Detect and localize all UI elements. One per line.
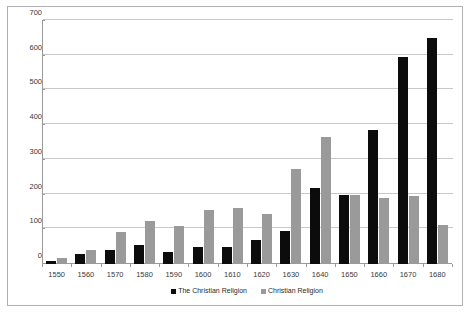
x-tick-label: 1640 (306, 269, 335, 281)
x-tick-label: 1600 (188, 269, 217, 281)
x-tick-mark (247, 264, 276, 268)
bar-series-a-1610 (222, 247, 232, 264)
x-tick-mark (130, 264, 159, 268)
bar-series-b-1680 (438, 225, 448, 264)
bar-series-b-1670 (409, 196, 419, 264)
y-axis: 0100200300400500600700 (8, 21, 42, 264)
bar-group (276, 21, 305, 264)
bar-group (306, 21, 335, 264)
bar-series-b-1610 (233, 208, 243, 264)
bar-series-a-1650 (339, 195, 349, 264)
x-axis-labels: 1550156015701580159016001610162016301640… (42, 269, 452, 281)
x-tick-label: 1660 (364, 269, 393, 281)
x-tick-label: 1570 (101, 269, 130, 281)
x-tick-label: 1620 (247, 269, 276, 281)
y-tick-label: 200 (16, 183, 42, 191)
x-axis-ticks (42, 264, 452, 268)
x-tick-mark (423, 264, 452, 268)
bar-group (130, 21, 159, 264)
bar-series-a-1680 (427, 38, 437, 264)
y-tick-label: 300 (16, 148, 42, 156)
bar-series-a-1600 (193, 247, 203, 264)
bar-series-b-1600 (204, 210, 214, 264)
x-tick-mark (42, 264, 71, 268)
bar-series-b-1560 (86, 250, 96, 264)
bar-group (364, 21, 393, 264)
bar-series-b-1570 (116, 232, 126, 264)
x-tick-mark (306, 264, 335, 268)
bar-series-a-1590 (163, 252, 173, 264)
chart-legend: The Christian ReligionChristian Religion (42, 285, 452, 297)
bar-group (247, 21, 276, 264)
bar-series-a-1620 (251, 240, 261, 264)
bar-group (393, 21, 422, 264)
bar-group (188, 21, 217, 264)
y-tick-label: 700 (16, 9, 42, 17)
legend-entry[interactable]: Christian Religion (261, 287, 323, 295)
bar-group (423, 21, 452, 264)
bar-series-a-1580 (134, 245, 144, 264)
x-tick-mark (276, 264, 305, 268)
bar-series-a-1640 (310, 188, 320, 264)
bar-series-b-1620 (262, 214, 272, 264)
y-tick-label: 0 (16, 252, 42, 260)
x-tick-label: 1590 (159, 269, 188, 281)
bar-series-b-1630 (291, 169, 301, 264)
legend-swatch-icon (261, 289, 266, 294)
chart-container: 0100200300400500600700 15501560157015801… (0, 0, 471, 315)
bar-group (42, 21, 71, 264)
bar-group (71, 21, 100, 264)
x-tick-label: 1670 (393, 269, 422, 281)
bar-series-a-1630 (280, 231, 290, 264)
bar-group (335, 21, 364, 264)
x-tick-label: 1550 (42, 269, 71, 281)
x-tick-label: 1580 (130, 269, 159, 281)
x-tick-mark (159, 264, 188, 268)
x-tick-label: 1650 (335, 269, 364, 281)
x-tick-mark (218, 264, 247, 268)
x-tick-label: 1680 (423, 269, 452, 281)
legend-entry[interactable]: The Christian Religion (171, 287, 247, 295)
x-tick-label: 1560 (71, 269, 100, 281)
bar-series-b-1660 (379, 198, 389, 264)
bar-group (218, 21, 247, 264)
x-tick-mark (101, 264, 130, 268)
bar-series-a-1660 (368, 130, 378, 264)
bar-series-b-1590 (174, 226, 184, 264)
x-tick-mark (335, 264, 364, 268)
bars-layer (42, 21, 452, 264)
bar-series-a-1560 (75, 254, 85, 264)
y-tick-label: 600 (16, 44, 42, 52)
bar-series-b-1650 (350, 195, 360, 264)
bar-group (101, 21, 130, 264)
bar-series-b-1580 (145, 221, 155, 264)
x-tick-label: 1610 (218, 269, 247, 281)
bar-series-a-1670 (398, 57, 408, 264)
x-tick-mark (188, 264, 217, 268)
x-tick-mark (71, 264, 100, 268)
bar-series-a-1570 (105, 250, 115, 264)
gridline (43, 19, 453, 20)
x-tick-mark (393, 264, 422, 268)
legend-label: Christian Religion (268, 287, 323, 295)
y-tick-label: 100 (16, 217, 42, 225)
x-tick-mark (364, 264, 393, 268)
y-tick-label: 500 (16, 78, 42, 86)
legend-label: The Christian Religion (178, 287, 247, 295)
x-tick-label: 1630 (276, 269, 305, 281)
bar-group (159, 21, 188, 264)
bar-series-b-1640 (321, 137, 331, 264)
legend-swatch-icon (171, 289, 176, 294)
y-tick-label: 400 (16, 113, 42, 121)
